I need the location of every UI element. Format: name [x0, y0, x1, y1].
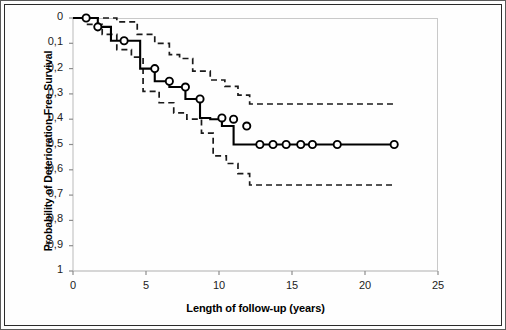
x-tick-label: 15 — [277, 279, 307, 291]
x-tick-label: 5 — [131, 279, 161, 291]
x-tick-label: 0 — [58, 279, 88, 291]
axis-tick-marks — [69, 18, 438, 275]
y-tick-label: 0 — [33, 10, 63, 22]
censored-markers — [83, 14, 398, 148]
y-axis-title: Probability of Deterioration-Free Surviv… — [42, 26, 54, 276]
survival-curve — [73, 18, 394, 145]
upper-confidence-band — [73, 18, 394, 104]
x-tick-label: 25 — [423, 279, 453, 291]
x-tick-label: 20 — [350, 279, 380, 291]
figure-container: 10,90,80,70,60,50,40,30,20,10 0510152025… — [0, 0, 506, 330]
x-axis-title: Length of follow-up (years) — [73, 302, 438, 314]
x-tick-label: 10 — [204, 279, 234, 291]
